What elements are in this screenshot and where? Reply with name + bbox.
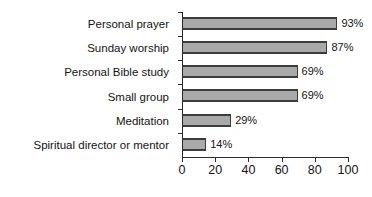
value-tick-label: 100 xyxy=(318,163,372,177)
bar xyxy=(183,41,327,54)
bar-row: 29% xyxy=(182,109,348,133)
value-axis-tick-labels: 020406080100 xyxy=(152,163,372,183)
category-tick xyxy=(178,84,182,85)
category-axis-labels: Personal prayer Sunday worship Personal … xyxy=(0,12,176,157)
category-label: Personal prayer xyxy=(0,12,176,36)
category-tick xyxy=(178,133,182,134)
category-tick xyxy=(178,12,182,13)
bar-row: 87% xyxy=(182,36,348,60)
value-tick xyxy=(282,157,283,162)
bar xyxy=(183,114,231,127)
bar xyxy=(183,138,206,151)
value-tick xyxy=(315,157,316,162)
bar-value-label: 69% xyxy=(302,63,324,80)
bar xyxy=(183,65,298,78)
category-label: Spiritual director or mentor xyxy=(0,133,176,157)
bar-value-label: 93% xyxy=(341,15,363,32)
bar-row: 69% xyxy=(182,84,348,108)
value-tick xyxy=(182,157,183,162)
category-label: Meditation xyxy=(0,109,176,133)
bar xyxy=(183,17,337,30)
value-tick xyxy=(248,157,249,162)
bar-row: 69% xyxy=(182,60,348,84)
bar-series: 93% 87% 69% 69% 29% xyxy=(182,12,348,157)
value-tick xyxy=(215,157,216,162)
bar-row: 14% xyxy=(182,133,348,157)
plot-area: 93% 87% 69% 69% 29% xyxy=(182,12,348,157)
category-tick xyxy=(178,60,182,61)
value-tick xyxy=(348,157,349,162)
category-tick xyxy=(178,36,182,37)
category-label: Sunday worship xyxy=(0,36,176,60)
category-label: Small group xyxy=(0,84,176,108)
category-tick xyxy=(178,109,182,110)
bar-value-label: 14% xyxy=(210,136,232,153)
bar xyxy=(183,89,298,102)
bar-chart: Personal prayer Sunday worship Personal … xyxy=(0,0,372,197)
category-label: Personal Bible study xyxy=(0,60,176,84)
bar-value-label: 87% xyxy=(331,39,353,56)
bar-value-label: 29% xyxy=(235,112,257,129)
bar-value-label: 69% xyxy=(302,87,324,104)
bar-row: 93% xyxy=(182,12,348,36)
